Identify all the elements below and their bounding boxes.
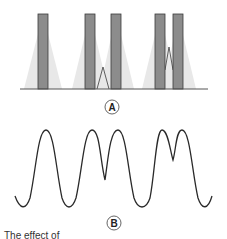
svg-text:A: A <box>108 102 115 113</box>
svg-text:B: B <box>110 218 117 229</box>
figure-diagram: A B <box>0 0 227 239</box>
figure-caption: The effect of <box>4 230 59 239</box>
intensity-wave <box>15 130 212 207</box>
label-b: B <box>107 216 121 230</box>
diffraction-cones <box>24 14 196 89</box>
label-a: A <box>105 100 119 114</box>
